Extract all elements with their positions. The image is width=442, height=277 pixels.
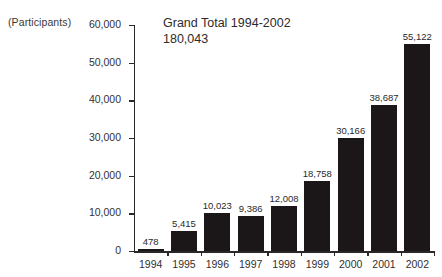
bar-value-label: 30,166 (336, 125, 365, 136)
y-axis-unit-label: (Participants) (8, 16, 71, 28)
plot-area: 010,00020,00030,00040,00050,00060,000 47… (134, 25, 434, 252)
bar-value-label: 5,415 (172, 218, 196, 229)
x-axis-category-label: 1999 (301, 258, 334, 270)
x-axis-tick (201, 251, 202, 256)
x-axis-tick (334, 251, 335, 256)
bar: 55,122 (404, 44, 430, 252)
x-axis-tick (301, 251, 302, 256)
bar-value-label: 18,758 (303, 168, 332, 179)
x-axis-category-label: 1995 (167, 258, 200, 270)
bar: 478 (138, 249, 164, 251)
y-axis-tick-label: 0 (115, 244, 121, 256)
bar-value-label: 9,386 (239, 203, 263, 214)
x-axis-tick (434, 251, 435, 256)
x-axis-category-label: 2001 (367, 258, 400, 270)
bar-value-label: 12,008 (269, 193, 298, 204)
x-axis-category-label: 2002 (401, 258, 434, 270)
bar-value-label: 10,023 (203, 200, 232, 211)
y-axis-tick: 60,000 (129, 25, 134, 26)
x-axis-category-label: 1994 (134, 258, 167, 270)
bar-chart: (Participants) Grand Total 1994-2002 180… (0, 0, 442, 277)
bar-value-label: 38,687 (369, 92, 398, 103)
x-axis-category-label: 1996 (201, 258, 234, 270)
y-axis-tick-label: 50,000 (89, 56, 121, 68)
x-axis-tick (167, 251, 168, 256)
x-axis-tick (367, 251, 368, 256)
bar: 10,023 (204, 213, 230, 251)
bar: 18,758 (304, 181, 330, 252)
x-axis-tick (234, 251, 235, 256)
y-axis-line (134, 25, 135, 252)
bar: 38,687 (371, 105, 397, 251)
x-axis-category-label: 2000 (334, 258, 367, 270)
y-axis-tick: 10,000 (129, 213, 134, 214)
x-axis-category-label: 1997 (234, 258, 267, 270)
x-axis-tick (401, 251, 402, 256)
bar: 30,166 (338, 138, 364, 252)
y-axis-tick-label: 30,000 (89, 131, 121, 143)
y-axis-tick-label: 10,000 (89, 206, 121, 218)
bar: 5,415 (171, 231, 197, 251)
bar: 12,008 (271, 206, 297, 251)
bar-value-label: 478 (143, 236, 159, 247)
y-axis-tick: 50,000 (129, 63, 134, 64)
bar: 9,386 (238, 216, 264, 251)
y-axis-tick-label: 20,000 (89, 169, 121, 181)
bar-value-label: 55,122 (403, 31, 432, 42)
y-axis-tick: 40,000 (129, 100, 134, 101)
y-axis-tick-label: 60,000 (89, 18, 121, 30)
x-axis-category-label: 1998 (267, 258, 300, 270)
x-axis-line (134, 251, 434, 253)
y-axis-tick: 0 (129, 251, 134, 252)
x-axis-tick (267, 251, 268, 256)
y-axis-tick: 30,000 (129, 138, 134, 139)
y-axis-tick: 20,000 (129, 176, 134, 177)
y-axis-tick-label: 40,000 (89, 93, 121, 105)
